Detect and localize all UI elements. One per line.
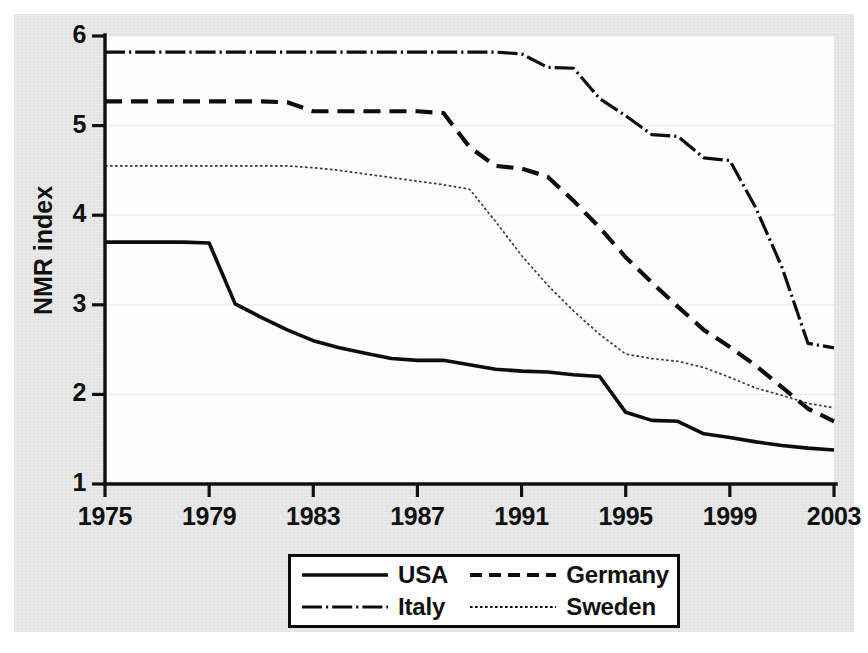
legend-item-italy: Italy: [301, 593, 469, 621]
x-tick-label: 1983: [267, 502, 359, 531]
series-lines: [105, 52, 834, 450]
legend-item-sweden: Sweden: [469, 593, 669, 621]
y-tick-label: 2: [46, 378, 86, 407]
y-axis-title: NMR index: [29, 161, 58, 341]
x-tick-label: 2003: [788, 502, 868, 531]
legend-swatch-dashed-icon: [469, 568, 557, 582]
x-tick-label: 1991: [476, 502, 568, 531]
y-tick-label: 1: [46, 468, 86, 497]
series-line-italy: [105, 52, 834, 348]
series-line-sweden: [105, 166, 834, 408]
x-tick-label: 1975: [59, 502, 151, 531]
figure-root: 123456 19751979198319871991199519992003 …: [0, 0, 868, 653]
x-tick-label: 1995: [580, 502, 672, 531]
legend-label-germany: Germany: [566, 561, 669, 589]
legend-label-italy: Italy: [398, 593, 445, 621]
series-line-germany: [105, 101, 834, 421]
legend-swatch-solid-icon: [301, 568, 389, 582]
legend-swatch-dash-dot-icon: [301, 600, 389, 614]
legend-swatch-dotted-icon: [469, 600, 557, 614]
legend-label-sweden: Sweden: [566, 593, 656, 621]
legend-item-germany: Germany: [469, 561, 669, 589]
chart-legend: USA Germany Italy Sw: [288, 554, 680, 628]
series-line-usa: [105, 242, 834, 450]
y-tick-label: 5: [46, 110, 86, 139]
x-tick-label: 1999: [684, 502, 776, 531]
axes: [92, 35, 836, 497]
x-tick-label: 1979: [163, 502, 255, 531]
y-tick-label: 6: [46, 20, 86, 49]
x-tick-label: 1987: [371, 502, 463, 531]
legend-label-usa: USA: [398, 561, 448, 589]
legend-item-usa: USA: [301, 561, 469, 589]
